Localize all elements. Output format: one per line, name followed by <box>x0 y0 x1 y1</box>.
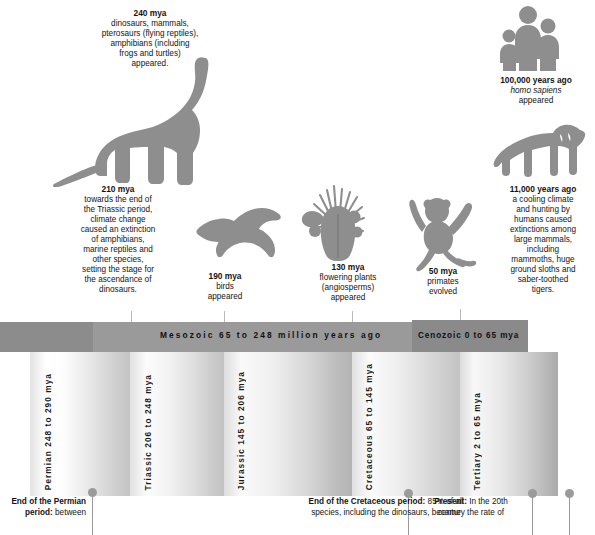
event-210mya-annotation: 210 mya towards the end ofthe Triassic p… <box>60 184 176 295</box>
pin-head <box>88 488 97 497</box>
footnote-cretaceous-lead: End of the Cretaceous period: <box>308 497 425 506</box>
event-100000ya-species: homo sapiens <box>484 86 588 96</box>
pin-head <box>565 489 574 498</box>
event-50mya-headline: 50 mya <box>405 266 481 276</box>
period-column-cretaceous: Cretaceous 65 to 145 mya <box>352 352 460 496</box>
primate-icon <box>406 190 480 272</box>
period-label-triassic: Triassic 206 to 248 mya <box>143 374 153 490</box>
event-210mya-body: towards the end ofthe Triassic period,cl… <box>60 195 176 295</box>
era-label-mesozoic: Mesozoic 65 to 248 million years ago <box>160 330 382 340</box>
event-50mya-body: primatesevolved <box>405 277 481 297</box>
period-columns: Permian 248 to 290 mya Triassic 206 to 2… <box>0 352 595 496</box>
event-11000ya-body: a cooling climateand hunting byhumans ca… <box>492 195 594 295</box>
period-column-triassic: Triassic 206 to 248 mya <box>130 352 224 496</box>
bird-icon <box>192 206 284 268</box>
footnote-present-rest: In the 20th <box>467 497 508 506</box>
pin-cretaceous-extinction <box>565 489 574 535</box>
event-100000ya-headline: 100,000 years ago <box>484 75 588 85</box>
sauropod-dinosaur-icon <box>50 52 240 187</box>
pin-permian-extinction <box>88 488 97 535</box>
footnote-present-lead: Present: <box>434 497 467 506</box>
event-210mya-headline: 210 mya <box>60 184 176 194</box>
pin-stem <box>569 498 571 535</box>
event-130mya-body: flowering plants(angiosperms)appeared <box>296 273 400 303</box>
event-130mya-annotation: 130 mya flowering plants(angiosperms)app… <box>296 262 400 303</box>
era-bar-segment-left <box>0 322 93 352</box>
period-column-tertiary: Tertiary 2 to 65 mya <box>460 352 558 496</box>
event-11000ya-annotation: 11,000 years ago a cooling climateand hu… <box>492 184 594 295</box>
footnote-present: Present: In the 20th century the rate of <box>418 497 524 519</box>
pin-stem <box>92 497 94 535</box>
period-label-permian: Permian 248 to 290 mya <box>43 373 53 490</box>
event-100000ya-annotation: 100,000 years ago homo sapiens appeared <box>484 75 588 106</box>
saber-toothed-tiger-icon <box>488 118 588 178</box>
event-190mya-annotation: 190 mya birdsappeared <box>180 271 270 302</box>
footnote-permian-rest: between <box>53 508 86 517</box>
event-11000ya-headline: 11,000 years ago <box>492 184 594 194</box>
event-190mya-headline: 190 mya <box>180 271 270 281</box>
event-100000ya-body: appeared <box>484 96 588 106</box>
period-column-jurassic: Jurassic 145 to 206 mya <box>224 352 352 496</box>
period-column-permian: Permian 248 to 290 mya <box>30 352 130 496</box>
human-family-icon <box>495 5 571 71</box>
flowering-plant-icon <box>300 184 376 262</box>
footnote-present-line2: century the rate of <box>438 508 504 517</box>
period-label-tertiary: Tertiary 2 to 65 mya <box>472 392 482 490</box>
period-label-jurassic: Jurassic 145 to 206 mya <box>236 371 246 490</box>
event-130mya-headline: 130 mya <box>296 262 400 272</box>
footnote-permian-extinction: End of the Permian period: between <box>2 497 86 519</box>
event-50mya-annotation: 50 mya primatesevolved <box>405 266 481 297</box>
era-label-cenozoic: Cenozoic 0 to 65 mya <box>418 331 519 340</box>
event-190mya-body: birdsappeared <box>180 282 270 302</box>
event-240mya-headline: 240 mya <box>65 8 235 18</box>
period-label-cretaceous: Cretaceous 65 to 145 mya <box>364 363 374 490</box>
